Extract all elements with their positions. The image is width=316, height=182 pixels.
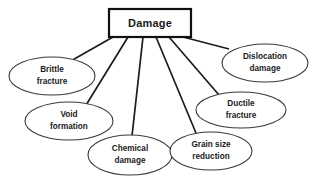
leaf-node-brittle-fracture[interactable]: Brittle fracture — [9, 57, 95, 95]
root-node-damage[interactable]: Damage — [109, 9, 191, 37]
damage-mechanisms-diagram: Damage Brittle fracture Void formation C… — [0, 0, 316, 182]
leaf-ellipse-brittle-fracture — [9, 57, 95, 95]
leaf-label-brittle-fracture-line1: Brittle — [40, 65, 64, 74]
leaf-label-dislocation-damage-line2: damage — [250, 64, 281, 73]
leaf-label-grain-size-reduction-line1: Grain size — [191, 140, 231, 149]
diagram-canvas: Damage Brittle fracture Void formation C… — [0, 0, 316, 182]
leaf-label-ductile-fracture-line2: fracture — [226, 111, 257, 120]
leaf-label-chemical-damage-line2: damage — [115, 156, 146, 165]
leaf-node-ductile-fracture[interactable]: Ductile fracture — [196, 92, 286, 128]
leaf-node-grain-size-reduction[interactable]: Grain size reduction — [170, 132, 252, 170]
leaf-ellipse-grain-size-reduction — [170, 132, 252, 170]
connector-chemical-damage — [132, 37, 143, 136]
leaf-label-brittle-fracture-line2: fracture — [37, 77, 68, 86]
connector-grain-size-reduction — [156, 37, 196, 133]
leaf-label-void-formation-line2: formation — [50, 122, 88, 131]
leaf-label-dislocation-damage-line1: Dislocation — [243, 52, 287, 61]
leaf-ellipse-dislocation-damage — [222, 44, 308, 82]
leaf-ellipse-chemical-damage — [88, 135, 172, 175]
leaf-label-grain-size-reduction-line2: reduction — [192, 152, 229, 161]
connector-brittle-fracture — [69, 37, 113, 62]
leaf-label-ductile-fracture-line1: Ductile — [227, 99, 255, 108]
root-node-label: Damage — [128, 17, 172, 29]
leaf-label-void-formation-line1: Void — [60, 110, 77, 119]
leaf-node-chemical-damage[interactable]: Chemical damage — [88, 135, 172, 175]
connector-dislocation-damage — [183, 37, 229, 49]
leaf-label-chemical-damage-line1: Chemical — [112, 144, 148, 153]
leaf-ellipse-void-formation — [25, 102, 113, 140]
leaf-node-void-formation[interactable]: Void formation — [25, 102, 113, 140]
leaf-node-dislocation-damage[interactable]: Dislocation damage — [222, 44, 308, 82]
leaf-ellipse-ductile-fracture — [196, 92, 286, 128]
